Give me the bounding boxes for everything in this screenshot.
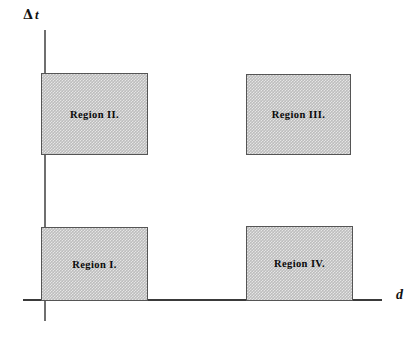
region-label-iv: Region IV. (274, 258, 325, 269)
region-label-ii: Region II. (70, 109, 119, 120)
delta-symbol: Δ (23, 7, 33, 22)
region-box-iii: Region III. (246, 74, 351, 155)
region-box-ii: Region II. (41, 73, 148, 155)
y-axis-label: Δt (23, 8, 39, 21)
region-label-iii: Region III. (272, 109, 325, 120)
x-axis-label: d (396, 288, 403, 302)
region-box-i: Region I. (41, 227, 148, 301)
region-box-iv: Region IV. (246, 226, 353, 301)
region-label-i: Region I. (72, 259, 116, 270)
diagram-canvas: Δt d Region II. Region III. Region I. Re… (0, 0, 417, 337)
y-axis-variable: t (35, 7, 39, 22)
